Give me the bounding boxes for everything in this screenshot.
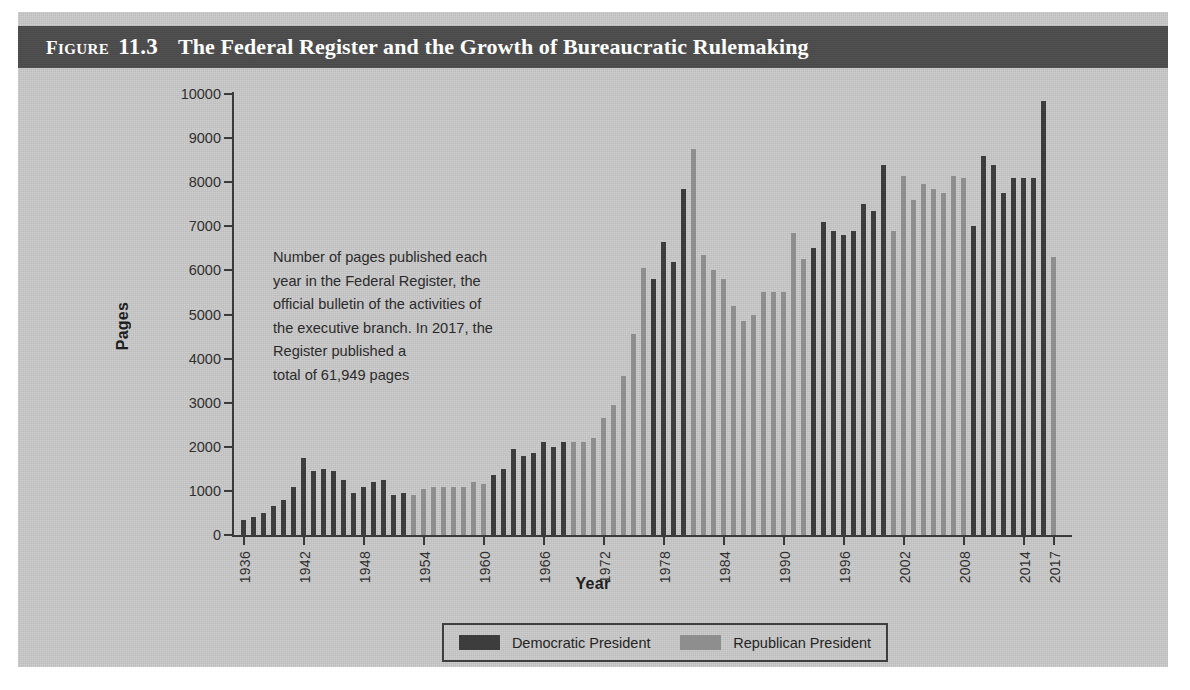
bar bbox=[391, 495, 396, 535]
x-axis-tick-label: 2014 bbox=[1017, 551, 1033, 583]
x-axis-tick-label: 2002 bbox=[897, 551, 913, 583]
bar bbox=[701, 255, 706, 535]
x-axis-tick-label: 1954 bbox=[417, 551, 433, 583]
x-axis-tick bbox=[963, 537, 965, 545]
plot-frame: 0100020003000400050006000700080009000100… bbox=[232, 92, 1072, 537]
y-axis-tick bbox=[224, 225, 232, 227]
x-axis-tick bbox=[363, 537, 365, 545]
bar bbox=[291, 487, 296, 536]
legend-label: Republican President bbox=[733, 635, 871, 651]
figure-title-bar: FIGURE 11.3 The Federal Register and the… bbox=[18, 26, 1168, 68]
bar bbox=[361, 487, 366, 536]
y-axis-tick-label: 2000 bbox=[189, 439, 221, 455]
x-axis-tick-label: 1984 bbox=[717, 551, 733, 583]
y-axis-line bbox=[232, 92, 234, 537]
bar bbox=[481, 484, 486, 535]
bar bbox=[751, 315, 756, 536]
x-axis-tick-label: 2008 bbox=[957, 551, 973, 583]
legend-item: Democratic President bbox=[459, 635, 651, 651]
bar bbox=[901, 176, 906, 535]
bar bbox=[371, 482, 376, 535]
x-axis-tick bbox=[243, 537, 245, 545]
bar bbox=[351, 493, 356, 535]
bar bbox=[491, 475, 496, 535]
x-axis-tick-label: 1978 bbox=[657, 551, 673, 583]
legend-label: Democratic President bbox=[512, 635, 651, 651]
bar bbox=[1001, 193, 1006, 535]
bar bbox=[661, 242, 666, 535]
x-axis-tick bbox=[1023, 537, 1025, 545]
bar bbox=[741, 321, 746, 535]
bar bbox=[341, 480, 346, 535]
y-axis-tick-label: 8000 bbox=[189, 174, 221, 190]
bar bbox=[461, 487, 466, 536]
bar bbox=[821, 222, 826, 535]
y-axis-title: Pages bbox=[114, 302, 132, 350]
x-axis-title: Year bbox=[18, 575, 1168, 593]
x-axis-tick bbox=[303, 537, 305, 545]
y-axis-tick bbox=[224, 446, 232, 448]
bar bbox=[971, 226, 976, 535]
y-axis-tick bbox=[224, 490, 232, 492]
bar bbox=[861, 204, 866, 535]
y-axis-tick-label: 7000 bbox=[189, 218, 221, 234]
bar bbox=[851, 231, 856, 535]
bar bbox=[271, 506, 276, 535]
x-axis-tick bbox=[483, 537, 485, 545]
x-axis-tick-label: 1960 bbox=[477, 551, 493, 583]
x-axis-tick bbox=[603, 537, 605, 545]
x-axis-tick bbox=[543, 537, 545, 545]
bar bbox=[1051, 257, 1056, 535]
bar bbox=[911, 200, 916, 535]
y-axis-tick bbox=[224, 93, 232, 95]
bar bbox=[781, 292, 786, 535]
bar bbox=[941, 193, 946, 535]
x-axis-tick bbox=[843, 537, 845, 545]
x-axis-tick-label: 1996 bbox=[837, 551, 853, 583]
bar bbox=[401, 493, 406, 535]
y-axis-tick-label: 1000 bbox=[189, 483, 221, 499]
bar bbox=[951, 176, 956, 535]
bar bbox=[441, 487, 446, 536]
x-axis-tick bbox=[903, 537, 905, 545]
x-axis-tick-label: 1936 bbox=[237, 551, 253, 583]
chart-legend: Democratic PresidentRepublican President bbox=[442, 623, 888, 662]
y-axis-tick-label: 4000 bbox=[189, 351, 221, 367]
bar bbox=[731, 306, 736, 535]
x-axis-tick-label: 1966 bbox=[537, 551, 553, 583]
figure-root: FIGURE 11.3 The Federal Register and the… bbox=[0, 0, 1190, 690]
bar bbox=[631, 334, 636, 535]
bar bbox=[471, 482, 476, 535]
x-axis-tick-label: 1942 bbox=[297, 551, 313, 583]
y-axis-tick-label: 3000 bbox=[189, 395, 221, 411]
y-axis-tick-label: 9000 bbox=[189, 130, 221, 146]
bar bbox=[601, 418, 606, 535]
bar bbox=[981, 156, 986, 535]
bar bbox=[431, 487, 436, 536]
y-axis-tick-label: 6000 bbox=[189, 262, 221, 278]
figure-title-inner: FIGURE 11.3 The Federal Register and the… bbox=[18, 34, 809, 60]
bar bbox=[1021, 178, 1026, 535]
bar bbox=[501, 469, 506, 535]
y-axis-tick bbox=[224, 402, 232, 404]
bar bbox=[711, 270, 716, 535]
bar bbox=[581, 442, 586, 535]
bar bbox=[881, 165, 886, 535]
bar bbox=[891, 231, 896, 535]
bar bbox=[671, 262, 676, 535]
bar bbox=[791, 233, 796, 535]
chart-area: Pages Year Number of pages published eac… bbox=[18, 70, 1168, 667]
figure-number: 11.3 bbox=[118, 34, 158, 60]
figure-title-text: The Federal Register and the Growth of B… bbox=[178, 34, 809, 60]
x-axis-line bbox=[232, 535, 1072, 537]
y-axis-tick bbox=[224, 314, 232, 316]
bar bbox=[571, 442, 576, 535]
y-axis-tick-label: 0 bbox=[213, 527, 221, 543]
x-axis-tick bbox=[783, 537, 785, 545]
y-axis-tick bbox=[224, 358, 232, 360]
x-axis-tick-label: 2017 bbox=[1047, 551, 1063, 583]
bar bbox=[551, 447, 556, 535]
bar bbox=[591, 438, 596, 535]
bar bbox=[681, 189, 686, 535]
y-axis-tick bbox=[224, 137, 232, 139]
